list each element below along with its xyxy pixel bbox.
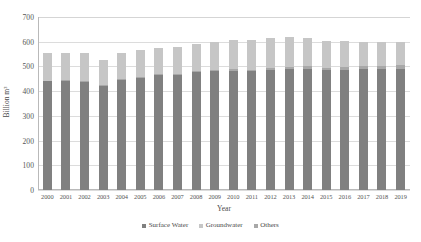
bar-segment-surface-water <box>80 82 89 190</box>
bar-segment-surface-water <box>229 71 238 190</box>
bar-segment-surface-water <box>154 75 163 190</box>
plot-area <box>38 17 410 190</box>
legend-label: Surface Water <box>149 222 189 229</box>
y-axis-tick-label: 200 <box>22 138 34 146</box>
bar-stack[interactable] <box>61 53 70 190</box>
bar-segment-groundwater <box>154 48 163 74</box>
legend-swatch-icon <box>142 224 146 228</box>
bar-segment-surface-water <box>117 80 126 190</box>
chart-legend: Surface WaterGroundwaterOthers <box>0 222 421 229</box>
bar-stack[interactable] <box>285 37 294 190</box>
legend-item-surface-water[interactable]: Surface Water <box>142 222 188 229</box>
bar-segment-surface-water <box>210 71 219 190</box>
y-axis-tick-label: 700 <box>22 14 34 22</box>
bar-segment-groundwater <box>99 60 108 85</box>
x-axis-tick-label: 2019 <box>391 191 410 203</box>
bar-slot <box>131 17 150 190</box>
x-axis-tick-label: 2005 <box>131 191 150 203</box>
bar-segment-groundwater <box>340 41 349 67</box>
bar-segment-groundwater <box>210 42 219 70</box>
bar-slot <box>298 17 317 190</box>
x-axis-tick-label: 2018 <box>373 191 392 203</box>
bar-stack[interactable] <box>229 40 238 190</box>
bar-segment-surface-water <box>192 72 201 190</box>
bar-segment-surface-water <box>99 86 108 190</box>
bar-slot <box>150 17 169 190</box>
bar-slot <box>391 17 410 190</box>
bar-segment-surface-water <box>173 75 182 190</box>
x-axis-tick-label: 2011 <box>243 191 262 203</box>
bar-segment-surface-water <box>61 81 70 190</box>
bar-slot <box>261 17 280 190</box>
bar-stack[interactable] <box>117 53 126 190</box>
stacked-bar-chart: Billion m³ 0100200300400500600700 200020… <box>0 0 421 242</box>
bar-slot <box>75 17 94 190</box>
bar-segment-surface-water <box>359 69 368 190</box>
bar-segment-groundwater <box>136 50 145 76</box>
bar-stack[interactable] <box>136 50 145 190</box>
legend-item-others[interactable]: Others <box>254 222 279 229</box>
bar-stack[interactable] <box>359 42 368 191</box>
bar-segment-groundwater <box>229 40 238 69</box>
bar-segment-groundwater <box>117 53 126 79</box>
bar-stack[interactable] <box>192 44 201 190</box>
x-axis-tick-label: 2014 <box>298 191 317 203</box>
bar-stack[interactable] <box>43 53 52 190</box>
y-axis-title: Billion m³ <box>2 87 11 118</box>
x-axis-tick-label: 2008 <box>187 191 206 203</box>
legend-swatch-icon <box>199 224 203 228</box>
bar-segment-surface-water <box>322 70 331 190</box>
bar-stack[interactable] <box>396 42 405 190</box>
bars-container <box>38 17 410 190</box>
y-axis-tick-label: 0 <box>30 187 34 195</box>
y-axis-tick-label: 500 <box>22 64 34 72</box>
bar-stack[interactable] <box>303 38 312 190</box>
bar-segment-groundwater <box>192 44 201 72</box>
y-axis-tick-label: 100 <box>22 163 34 171</box>
bar-stack[interactable] <box>173 47 182 190</box>
bar-slot <box>354 17 373 190</box>
bar-slot <box>373 17 392 190</box>
bar-segment-surface-water <box>136 78 145 190</box>
bar-segment-groundwater <box>173 47 182 74</box>
bar-stack[interactable] <box>210 42 219 190</box>
bar-stack[interactable] <box>377 42 386 190</box>
bar-segment-surface-water <box>285 69 294 190</box>
y-axis-tick-label: 300 <box>22 113 34 121</box>
bar-slot <box>243 17 262 190</box>
bar-slot <box>224 17 243 190</box>
bar-slot <box>168 17 187 190</box>
bar-segment-surface-water <box>377 69 386 190</box>
bar-stack[interactable] <box>322 41 331 190</box>
bar-segment-surface-water <box>396 69 405 190</box>
bar-segment-groundwater <box>247 40 256 70</box>
y-axis-tick-label: 600 <box>22 39 34 47</box>
x-axis-tick-label: 2017 <box>354 191 373 203</box>
bar-stack[interactable] <box>247 40 256 190</box>
y-axis-tick-label: 400 <box>22 88 34 96</box>
bar-stack[interactable] <box>154 48 163 190</box>
bar-segment-groundwater <box>43 53 52 80</box>
bar-segment-groundwater <box>303 38 312 66</box>
legend-item-groundwater[interactable]: Groundwater <box>199 222 242 229</box>
x-axis-tick-label: 2009 <box>205 191 224 203</box>
bar-segment-surface-water <box>340 70 349 190</box>
bar-segment-groundwater <box>396 42 405 65</box>
x-axis-title: Year <box>38 204 410 213</box>
x-axis-tick-label: 2013 <box>280 191 299 203</box>
bar-slot <box>280 17 299 190</box>
bar-slot <box>336 17 355 190</box>
bar-stack[interactable] <box>266 38 275 190</box>
legend-swatch-icon <box>254 224 258 228</box>
bar-stack[interactable] <box>80 53 89 190</box>
bar-slot <box>112 17 131 190</box>
x-axis-tick-label: 2001 <box>57 191 76 203</box>
x-axis-tick-label: 2010 <box>224 191 243 203</box>
bar-stack[interactable] <box>99 60 108 190</box>
x-axis-tick-label: 2003 <box>94 191 113 203</box>
bar-slot <box>205 17 224 190</box>
x-axis-tick-label: 2000 <box>38 191 57 203</box>
bar-stack[interactable] <box>340 41 349 190</box>
bar-segment-groundwater <box>61 53 70 80</box>
bar-segment-groundwater <box>377 42 386 66</box>
